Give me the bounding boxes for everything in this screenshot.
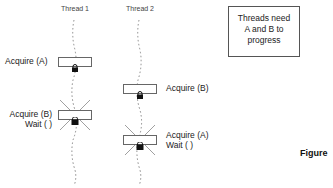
acquire-b-wait-label: Acquire (B) Wait ( ) (0, 109, 52, 129)
thread-2-timeline (137, 20, 142, 186)
lock-icon (124, 142, 156, 150)
acquire-a-label: Acquire (A) (5, 56, 48, 66)
acquire-a-wait-label: Acquire (A) Wait ( ) (166, 130, 209, 150)
lock-box (123, 84, 157, 94)
blocked-lock-box (58, 110, 92, 120)
thread-1-timeline (72, 20, 77, 186)
lock-box (58, 57, 92, 67)
lock-icon (59, 64, 91, 72)
thread-1-label: Thread 1 (61, 5, 89, 12)
acquire-b-label: Acquire (B) (166, 83, 209, 93)
note-box: Threads need A and B to progress (228, 6, 300, 57)
figure-caption: Figure (300, 148, 328, 158)
thread-2-label: Thread 2 (126, 5, 154, 12)
lock-icon (59, 117, 91, 125)
lock-icon (124, 91, 156, 99)
blocked-lock-box (123, 135, 157, 145)
